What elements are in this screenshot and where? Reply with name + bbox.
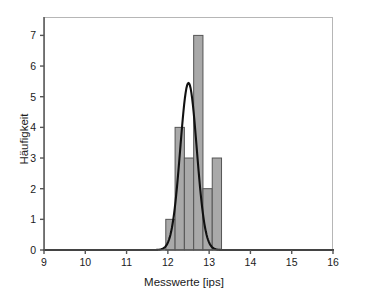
x-tick-label: 16 [327, 256, 339, 268]
x-tick-label: 15 [286, 256, 298, 268]
histogram-bar [212, 158, 221, 250]
x-tick-label: 11 [121, 256, 132, 268]
histogram-bar [184, 158, 193, 250]
y-axis-label: Häufigkeit [18, 69, 30, 209]
x-tick-label: 10 [79, 256, 91, 268]
y-tick-label: 7 [20, 29, 36, 41]
histogram-bar [194, 35, 203, 250]
x-tick-label: 13 [203, 256, 215, 268]
x-tick-label: 12 [162, 256, 174, 268]
x-tick-label: 14 [245, 256, 257, 268]
y-tick-label: 0 [20, 244, 36, 256]
x-tick-label: 9 [41, 256, 47, 268]
chart-figure: 910111213141516 01234567 Messwerte [ips]… [0, 0, 368, 301]
x-axis-label: Messwerte [ips] [0, 276, 368, 288]
chart-canvas [0, 0, 368, 301]
y-tick-label: 1 [20, 213, 36, 225]
